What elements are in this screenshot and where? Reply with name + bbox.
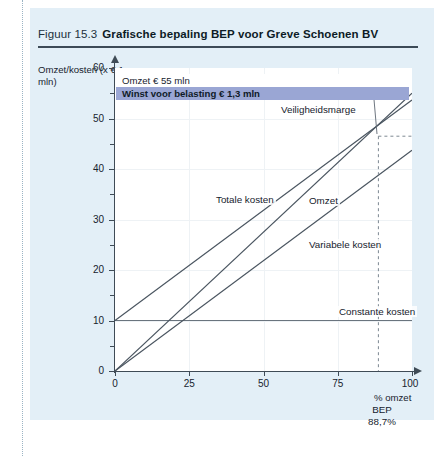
y-label-20: 20: [64, 264, 104, 275]
y-label-50: 50: [64, 113, 104, 124]
series-label-totale-kosten: Totale kosten: [214, 194, 276, 205]
bep-caption-value: 88,7%: [352, 416, 412, 428]
x-label-100: 100: [390, 378, 430, 389]
revenue-note-label: Omzet € 55 mln: [122, 75, 190, 86]
figure-heading: Figuur 15.3Grafische bepaling BEP voor G…: [38, 24, 428, 44]
series-label-constante-kosten: Constante kosten: [337, 306, 417, 317]
y-tick-minor-45: [110, 144, 114, 145]
x-tick-100: [412, 371, 413, 376]
y-tick-minor-15: [110, 295, 114, 296]
x-tick-0: [115, 371, 116, 376]
y-tick-30: [109, 220, 114, 221]
x-label-25: 25: [169, 378, 209, 389]
bep-caption-title: BEP: [352, 404, 412, 416]
x-axis: [114, 371, 419, 372]
bep-caption: BEP 88,7%: [352, 404, 412, 428]
y-tick-40: [109, 169, 114, 170]
x-label-50: 50: [244, 378, 284, 389]
y-label-10: 10: [64, 315, 104, 326]
x-tick-75: [338, 371, 339, 376]
y-tick-minor-55: [110, 93, 114, 94]
line-omzet: [115, 93, 412, 371]
x-axis-arrow: [414, 367, 422, 375]
x-tick-50: [264, 371, 265, 376]
figure-number: Figuur 15.3: [38, 28, 97, 40]
series-label-variabele-kosten: Variabele kosten: [307, 239, 383, 250]
y-axis-arrow: [111, 55, 119, 63]
x-tick-25: [189, 371, 190, 376]
y-tick-minor-35: [110, 194, 114, 195]
y-axis: [114, 62, 115, 373]
y-label-40: 40: [64, 163, 104, 174]
y-tick-minor-25: [110, 245, 114, 246]
y-label-30: 30: [64, 214, 104, 225]
y-tick-10: [109, 321, 114, 322]
figure-title: Grafische bepaling BEP voor Greve Schoen…: [102, 28, 378, 40]
y-tick-0: [109, 371, 114, 372]
y-tick-minor-5: [110, 346, 114, 347]
x-axis-title: % omzet: [374, 392, 411, 403]
safety-margin-label: Veiligheidsmarge: [279, 104, 358, 115]
page-cut-line: [22, 0, 23, 456]
y-label-60: 60: [64, 62, 104, 73]
x-label-75: 75: [318, 378, 358, 389]
profit-note-label: Winst voor belasting € 1,3 mln: [122, 88, 260, 99]
y-tick-20: [109, 270, 114, 271]
y-tick-60: [109, 68, 114, 69]
title-divider: [38, 46, 418, 48]
y-label-0: 0: [64, 365, 104, 376]
line-totale-kosten: [115, 100, 412, 321]
x-label-0: 0: [95, 378, 135, 389]
series-label-omzet: Omzet: [307, 195, 340, 206]
line-variabele-kosten: [115, 150, 412, 371]
page-canvas: Figuur 15.3Grafische bepaling BEP voor G…: [0, 0, 444, 456]
series-lines: [115, 68, 412, 371]
y-tick-50: [109, 119, 114, 120]
